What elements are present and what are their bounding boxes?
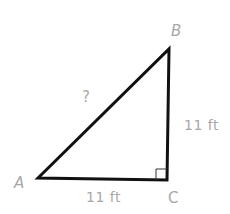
- side-label-ac: 11 ft: [86, 190, 121, 204]
- triangle-svg: [0, 0, 230, 214]
- side-label-ab-unknown: ?: [82, 90, 90, 105]
- vertex-label-c: C: [168, 191, 178, 206]
- vertex-label-b: B: [171, 24, 181, 39]
- triangle-abc: [38, 49, 169, 180]
- vertex-label-a: A: [14, 176, 24, 191]
- right-angle-marker: [156, 169, 167, 180]
- triangle-diagram: B A C 11 ft 11 ft ?: [0, 0, 230, 214]
- side-label-bc: 11 ft: [184, 118, 219, 132]
